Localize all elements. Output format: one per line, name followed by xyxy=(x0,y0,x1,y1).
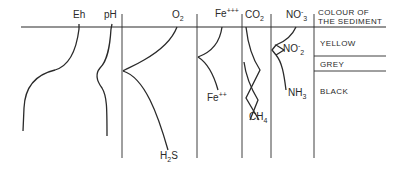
fe3-curve xyxy=(198,27,222,57)
header-co2: CO2 xyxy=(245,10,264,20)
nh3-curve xyxy=(276,55,286,90)
header-fe3: Fe+++ xyxy=(215,9,239,19)
o2-curve xyxy=(123,27,177,71)
layer-yellow: YELLOW xyxy=(320,40,356,48)
label-ch4: CH4 xyxy=(249,112,267,122)
h2s-curve xyxy=(123,71,168,150)
header-o2: O2 xyxy=(172,10,184,20)
eh-curve xyxy=(23,24,79,131)
layer-grey: GREY xyxy=(320,61,344,69)
label-nh3: NH3 xyxy=(288,88,306,98)
no2-curve xyxy=(272,45,276,55)
label-no2: NO-2 xyxy=(283,44,304,54)
sediment-chemistry-diagram: Eh pH O2 Fe+++ CO2 NO-3 COLOUR OF THE SE… xyxy=(0,0,396,171)
header-no3: NO-3 xyxy=(286,10,307,20)
header-eh: Eh xyxy=(73,10,85,20)
ph-curve xyxy=(97,24,112,136)
sediment-header-line1: COLOUR OF xyxy=(318,9,369,17)
fe2-curve xyxy=(198,57,218,90)
label-fe2: Fe++ xyxy=(207,93,227,103)
sediment-header-line2: THE SEDIMENT xyxy=(318,18,382,26)
co2-curve xyxy=(246,27,260,120)
layer-black: BLACK xyxy=(320,88,348,96)
label-h2s: H2S xyxy=(160,151,178,161)
header-ph: pH xyxy=(104,10,117,20)
